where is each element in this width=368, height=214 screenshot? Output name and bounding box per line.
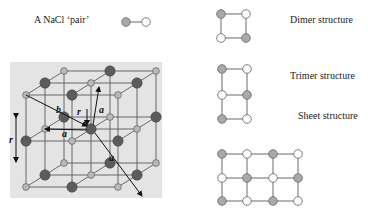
chloride-atom xyxy=(218,91,227,100)
sodium-ion xyxy=(151,112,161,122)
chloride-atom xyxy=(269,174,278,183)
lattice-label-a_diag: a xyxy=(109,152,114,163)
chloride-ion xyxy=(153,68,160,75)
chloride-ion xyxy=(69,138,76,145)
chloride-atom xyxy=(242,10,251,19)
sodium-atom xyxy=(242,34,251,43)
chloride-ion xyxy=(61,160,68,167)
chloride-ion xyxy=(153,160,160,167)
sodium-ion xyxy=(40,170,50,180)
dimer-structure xyxy=(217,10,251,43)
chloride-atom xyxy=(294,197,303,206)
chloride-ion xyxy=(88,172,95,179)
sodium-atom xyxy=(217,10,226,19)
chloride-atom xyxy=(243,197,252,206)
chloride-atom xyxy=(243,65,252,74)
lattice-label-a_top: a xyxy=(99,104,104,115)
sodium-atom xyxy=(294,174,303,183)
sodium-ion xyxy=(67,90,77,100)
chloride-atom xyxy=(294,150,303,159)
chloride-ion xyxy=(88,80,95,87)
chloride-ion xyxy=(115,184,122,191)
sodium-ion xyxy=(40,78,50,88)
sodium-atom xyxy=(243,174,252,183)
lattice-label-b: b xyxy=(56,104,61,115)
sodium-ion xyxy=(86,124,96,134)
nacl-crystal-lattice: rrbaaa xyxy=(9,66,161,196)
sodium-atom xyxy=(218,65,227,74)
sodium-atom xyxy=(218,150,227,159)
chloride-ion xyxy=(61,68,68,75)
chloride-atom xyxy=(243,150,252,159)
sheet-structure xyxy=(218,150,303,206)
nacl-pair-label: A NaCl ‘pair’ xyxy=(34,15,89,25)
sodium-ion xyxy=(21,136,31,146)
sodium-ion xyxy=(132,78,142,88)
lattice-label-r_left: r xyxy=(9,134,13,145)
chloride-atom xyxy=(217,34,226,43)
sodium-atom xyxy=(122,18,131,27)
sodium-atom xyxy=(243,91,252,100)
sodium-ion xyxy=(132,170,142,180)
sheet-structure-label: Sheet structure xyxy=(298,111,358,121)
molecule-diagrams xyxy=(122,10,303,206)
sodium-ion xyxy=(113,136,123,146)
chloride-atom xyxy=(142,18,151,27)
structures-canvas: rrbaaa xyxy=(0,0,368,214)
sodium-atom xyxy=(218,115,227,124)
nacl-pair-structure xyxy=(122,18,151,27)
sodium-atom xyxy=(269,150,278,159)
sodium-atom xyxy=(269,197,278,206)
sodium-atom xyxy=(218,197,227,206)
chloride-ion xyxy=(107,114,114,121)
trimer-structure xyxy=(218,65,252,124)
sodium-ion xyxy=(105,66,115,76)
lattice-label-a_mid: a xyxy=(62,128,67,139)
trimer-structure-label: Trimer structure xyxy=(290,71,355,81)
dimer-structure-label: Dimer structure xyxy=(290,15,353,25)
chloride-atom xyxy=(218,174,227,183)
chloride-ion xyxy=(115,92,122,99)
chloride-ion xyxy=(23,184,30,191)
sodium-ion xyxy=(67,182,77,192)
chloride-ion xyxy=(134,126,141,133)
lattice-label-r_center: r xyxy=(77,106,81,117)
chloride-atom xyxy=(243,115,252,124)
